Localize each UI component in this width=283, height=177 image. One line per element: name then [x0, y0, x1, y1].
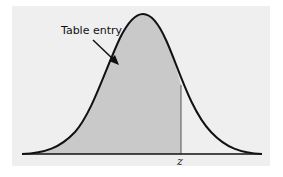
normal-curve-diagram	[0, 0, 283, 177]
arrow-icon	[93, 40, 114, 60]
table-entry-label: Table entry	[61, 24, 122, 37]
z-label: z	[177, 155, 183, 168]
